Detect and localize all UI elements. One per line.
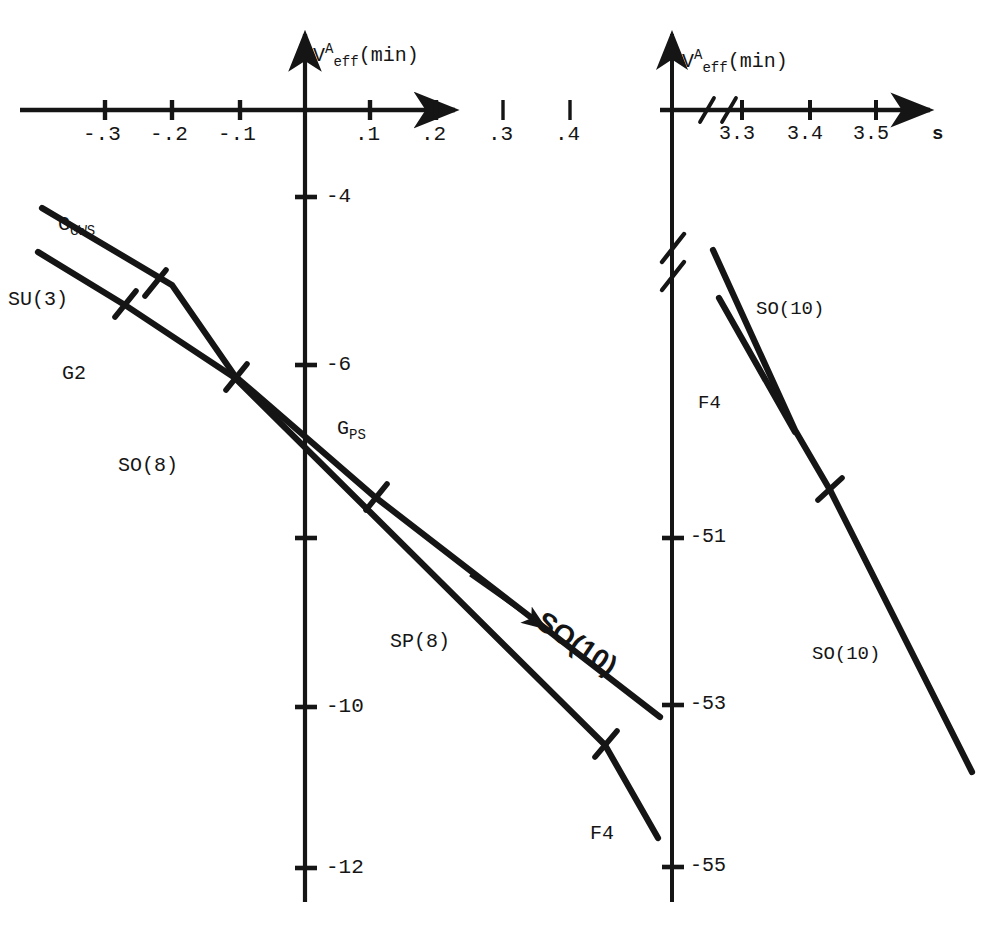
left-y-tick-label: -4 [326,186,351,207]
g-gws-base: G [58,213,70,236]
right-panel-curves [713,250,972,772]
curve-label-g-ps: GPS [337,419,366,442]
figure-canvas: VAeff(min) -.3 -.2 -.1 .1 .2 .3 .4 -4 -6… [0,0,991,933]
curve-label-f4-left: F4 [590,824,614,844]
axis-label-unit: (min) [359,44,419,67]
axis-label-base: V [682,50,694,73]
curve-label-so10-right-lower: SO(10) [812,645,880,664]
left-x-tick-label: .2 [421,124,446,145]
curve-label-sp8: SP(8) [390,632,450,652]
axis-label-unit: (min) [728,50,788,73]
right-x-tick-label: 3.3 [719,124,755,144]
curve-label-so10-right-upper: SO(10) [756,300,824,319]
left-panel-curves [38,208,660,838]
curve-label-f4-right: F4 [698,394,721,413]
left-x-tick-label: -.3 [83,124,121,145]
right-x-tick-label: 3.5 [853,124,889,144]
right-y-tick-label: -55 [690,856,726,876]
g-ps-subscript: PS [349,427,366,443]
curve-label-su3: SU(3) [8,290,68,310]
left-x-tick-label: .3 [488,124,513,145]
left-y-tick-label: -12 [326,857,364,878]
right-y-axis-label: VAeff(min) [682,48,788,75]
g-gws-subscript: GWS [70,223,95,239]
left-x-tick-label: .1 [355,124,380,145]
curve-so10-right-lower [830,490,972,772]
right-x-axis-label: s [932,125,943,144]
curve-sp8 [38,252,605,745]
right-panel-axes [660,34,930,902]
left-x-tick-label: .4 [555,124,580,145]
left-y-tick-label: -10 [326,696,364,717]
curve-label-g2: G2 [62,364,86,384]
curve-so10-right-upper [713,250,830,490]
g-ps-base: G [337,417,349,440]
axis-label-base: V [313,44,325,67]
axis-label-subscript: eff [333,54,358,70]
right-y-tick-label: -51 [690,527,726,547]
left-x-tick-label: -.1 [218,124,256,145]
left-panel-axes [20,34,570,902]
curve-label-so8: SO(8) [118,456,178,476]
left-y-axis-label: VAeff(min) [313,42,419,69]
right-y-tick-label: -53 [690,694,726,714]
axis-label-subscript: eff [702,60,727,76]
right-x-tick-label: 3.4 [787,124,823,144]
left-x-tick-label: -.2 [150,124,188,145]
left-y-tick-label: -6 [326,354,351,375]
curve-label-g-gws: GGWS [58,215,95,238]
